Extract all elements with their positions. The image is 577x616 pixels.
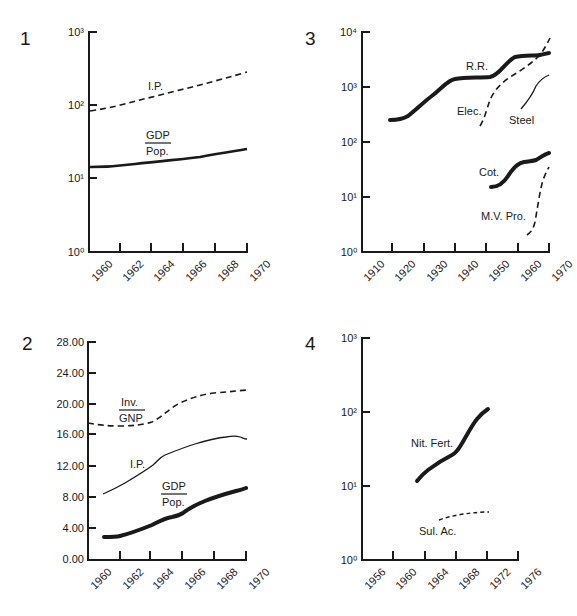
- x-tick-label: 1970: [247, 258, 273, 284]
- x-tick-label: 1956: [362, 566, 388, 592]
- panel-number: 4: [305, 333, 316, 354]
- x-tick-label: 1964: [150, 566, 176, 592]
- series-mv-pro-line: [527, 167, 549, 235]
- y-tick-label: 10¹: [341, 480, 357, 492]
- series-label-gdp-numerator: GDP: [162, 480, 186, 492]
- y-tick-label: 12.00: [56, 460, 84, 472]
- x-tick-label: 1968: [214, 566, 240, 592]
- panel-number: 1: [20, 28, 31, 49]
- y-tick-label: 10³: [341, 81, 357, 93]
- x-tick-label: 1920: [392, 258, 418, 284]
- y-tick-label: 10²: [68, 99, 84, 111]
- x-tick-label: 1968: [215, 258, 241, 284]
- axes: [89, 31, 248, 252]
- y-tick-label: 10¹: [341, 191, 357, 203]
- y-tick-label: 10²: [341, 406, 357, 418]
- series-label-gdp-denominator: Pop.: [162, 496, 185, 508]
- y-ticks: 10⁰ 10¹ 10² 10³: [68, 26, 97, 258]
- series-inv-gnp-line: [88, 390, 247, 426]
- axes: [88, 341, 247, 560]
- y-tick-label: 8.00: [63, 491, 84, 503]
- series-label-inv-numerator: Inv.: [121, 396, 138, 408]
- x-tick-label: 1966: [182, 566, 208, 592]
- x-tick-label: 1940: [455, 258, 481, 284]
- y-ticks: 10⁰ 10¹ 10² 10³ 10⁴: [340, 26, 370, 258]
- y-tick-label: 0.00: [63, 553, 84, 565]
- y-tick-label: 10³: [68, 26, 84, 38]
- x-ticks: 1960 1962 1964 1966 1968 1970: [88, 551, 272, 591]
- x-tick-label: 1930: [424, 258, 450, 284]
- x-ticks: 1910 1920 1930 1940 1950 1960 1970: [361, 243, 575, 283]
- panel-1: 1 10⁰ 10¹ 10² 10³ 1960 1962 1964 1966 19…: [20, 26, 273, 283]
- y-tick-label: 24.00: [56, 367, 84, 379]
- panel-number: 3: [305, 28, 316, 49]
- series-label-nit-fert: Nit. Fert.: [411, 437, 453, 449]
- series-label-ip: I.P.: [148, 80, 163, 92]
- x-tick-label: 1962: [120, 566, 146, 592]
- y-tick-label: 28.00: [56, 336, 84, 348]
- x-ticks: 1956 1960 1964 1968 1972 1976: [362, 551, 544, 591]
- panel-4: 4 10⁰ 10¹ 10² 10³ 1956 1960 1964 1968 19…: [305, 332, 544, 591]
- x-tick-label: 1968: [456, 566, 482, 592]
- series-label-rr: R.R.: [466, 60, 488, 72]
- series-sul-ac-line: [439, 512, 489, 520]
- y-tick-label: 10¹: [68, 172, 84, 184]
- y-tick-label: 10⁰: [68, 246, 85, 258]
- x-tick-label: 1970: [549, 258, 575, 284]
- panel-number: 2: [22, 333, 33, 354]
- x-ticks: 1960 1962 1964 1966 1968 1970: [89, 243, 273, 283]
- x-tick-label: 1972: [487, 566, 513, 592]
- series-ip-line: [90, 72, 247, 111]
- series-label-gdp-denominator: Pop.: [146, 145, 169, 157]
- y-tick-label: 10⁴: [340, 26, 357, 38]
- figure-canvas: 1 10⁰ 10¹ 10² 10³ 1960 1962 1964 1966 19…: [0, 0, 577, 616]
- x-tick-label: 1960: [393, 566, 419, 592]
- y-ticks: 0.00 4.00 8.00 12.00 16.00 20.00 24.00 2…: [56, 336, 96, 565]
- x-tick-label: 1964: [151, 258, 177, 284]
- x-tick-label: 1970: [246, 566, 272, 592]
- series-label-sul-ac: Sul. Ac.: [419, 525, 456, 537]
- x-tick-label: 1960: [89, 258, 115, 284]
- x-tick-label: 1964: [425, 566, 451, 592]
- series-label-elec: Elec.: [457, 105, 481, 117]
- x-tick-label: 1960: [88, 566, 114, 592]
- series-label-gdp-numerator: GDP: [146, 129, 170, 141]
- series-label-mv-pro: M.V. Pro.: [481, 210, 526, 222]
- panel-2: 2 0.00 4.00 8.00 12.00 16.00 20.00 24.00…: [22, 333, 272, 591]
- x-tick-label: 1966: [183, 258, 209, 284]
- x-tick-label: 1962: [120, 258, 146, 284]
- y-tick-label: 10⁰: [341, 554, 358, 566]
- panel-3: 3 10⁰ 10¹ 10² 10³ 10⁴ 1910 1920 1930 194…: [305, 26, 575, 283]
- series-label-cot: Cot.: [479, 166, 499, 178]
- series-label-ip: I.P.: [130, 458, 145, 470]
- y-tick-label: 16.00: [56, 428, 84, 440]
- x-tick-label: 1910: [361, 258, 387, 284]
- x-tick-label: 1976: [518, 566, 544, 592]
- y-tick-label: 20.00: [56, 398, 84, 410]
- x-tick-label: 1950: [486, 258, 512, 284]
- y-tick-label: 10⁰: [341, 246, 358, 258]
- series-label-steel: Steel: [509, 114, 534, 126]
- y-tick-label: 4.00: [63, 522, 84, 534]
- y-tick-label: 10³: [341, 332, 357, 344]
- x-tick-label: 1960: [518, 258, 544, 284]
- series-label-inv-denominator: GNP: [119, 412, 143, 424]
- series-cot-line: [491, 153, 549, 187]
- y-ticks: 10⁰ 10¹ 10² 10³: [341, 332, 370, 566]
- y-tick-label: 10²: [341, 136, 357, 148]
- series-steel-line: [521, 75, 549, 109]
